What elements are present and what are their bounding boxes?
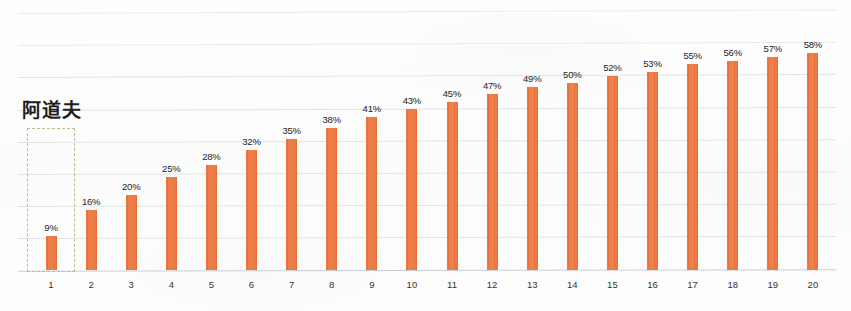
highlight-box-annotation bbox=[27, 128, 75, 272]
bar-value-label: 57% bbox=[764, 43, 782, 54]
bar bbox=[447, 102, 458, 270]
x-axis-tick-label: 20 bbox=[808, 279, 819, 290]
bar bbox=[86, 210, 97, 270]
bar bbox=[286, 139, 297, 270]
gridline bbox=[18, 171, 836, 174]
bar bbox=[767, 57, 778, 270]
bar-value-label: 55% bbox=[683, 50, 701, 61]
x-axis-tick-label: 6 bbox=[249, 279, 254, 290]
x-axis-tick-label: 4 bbox=[169, 279, 174, 290]
x-axis-tick-label: 18 bbox=[727, 279, 738, 290]
bar-value-label: 28% bbox=[202, 151, 220, 162]
x-axis-tick-label: 14 bbox=[567, 279, 578, 290]
chart-screenshot: 9%16%20%25%28%32%35%38%41%43%45%47%49%50… bbox=[0, 0, 851, 311]
bar bbox=[206, 165, 217, 270]
bar bbox=[567, 83, 578, 270]
x-axis-tick-label: 2 bbox=[88, 279, 93, 290]
bar-value-label: 45% bbox=[443, 88, 461, 99]
bar-value-label: 20% bbox=[122, 181, 140, 192]
gridline bbox=[18, 10, 836, 15]
gridline bbox=[18, 42, 836, 46]
x-axis-tick-label: 12 bbox=[487, 279, 498, 290]
gridline bbox=[18, 236, 836, 239]
bar bbox=[727, 61, 738, 270]
x-axis-tick-label: 10 bbox=[407, 279, 418, 290]
bar-value-label: 47% bbox=[483, 80, 501, 91]
bar bbox=[687, 64, 698, 270]
x-axis-tick-label: 1 bbox=[48, 279, 53, 290]
bar-value-label: 52% bbox=[603, 62, 621, 73]
bar-chart-plot-area: 9%16%20%25%28%32%35%38%41%43%45%47%49%50… bbox=[0, 0, 851, 311]
gridline bbox=[18, 139, 836, 143]
bar bbox=[647, 72, 658, 270]
bar-value-label: 58% bbox=[804, 39, 822, 50]
bar-value-label: 16% bbox=[82, 196, 100, 207]
gridline bbox=[18, 107, 836, 111]
x-axis-tick-label: 9 bbox=[369, 279, 374, 290]
bar-value-label: 50% bbox=[563, 69, 581, 80]
x-axis-tick-label: 3 bbox=[129, 279, 134, 290]
x-axis-tick-label: 17 bbox=[687, 279, 698, 290]
x-axis-tick-label: 13 bbox=[527, 279, 538, 290]
bar bbox=[607, 76, 618, 271]
x-axis-tick-label: 15 bbox=[607, 279, 618, 290]
x-axis-tick-label: 11 bbox=[447, 279, 457, 290]
bar-value-label: 38% bbox=[322, 114, 340, 125]
x-axis-tick-label: 8 bbox=[329, 279, 334, 290]
bar-value-label: 53% bbox=[643, 58, 661, 69]
x-axis-tick-label: 7 bbox=[289, 279, 294, 290]
bar-value-label: 25% bbox=[162, 163, 180, 174]
bar bbox=[527, 87, 538, 270]
bar bbox=[807, 53, 818, 270]
bar-value-label: 49% bbox=[523, 73, 541, 84]
bar bbox=[246, 150, 257, 270]
bar-value-label: 56% bbox=[723, 47, 741, 58]
x-axis-tick-label: 16 bbox=[647, 279, 658, 290]
gridline bbox=[18, 74, 836, 78]
bar bbox=[166, 177, 177, 271]
bar bbox=[406, 109, 417, 270]
bar-value-label: 32% bbox=[242, 136, 260, 147]
bar bbox=[487, 94, 498, 270]
bar-value-label: 35% bbox=[282, 125, 300, 136]
gridline bbox=[18, 204, 836, 207]
x-axis-line bbox=[18, 269, 836, 271]
series-annotation-label: 阿道夫 bbox=[22, 95, 82, 122]
x-axis-tick-label: 5 bbox=[209, 279, 214, 290]
x-axis-tick-label: 19 bbox=[768, 279, 779, 290]
bar bbox=[326, 128, 337, 270]
bar bbox=[126, 195, 137, 270]
bar bbox=[366, 117, 377, 270]
bar-value-label: 43% bbox=[403, 95, 421, 106]
bar-value-label: 41% bbox=[363, 103, 381, 114]
